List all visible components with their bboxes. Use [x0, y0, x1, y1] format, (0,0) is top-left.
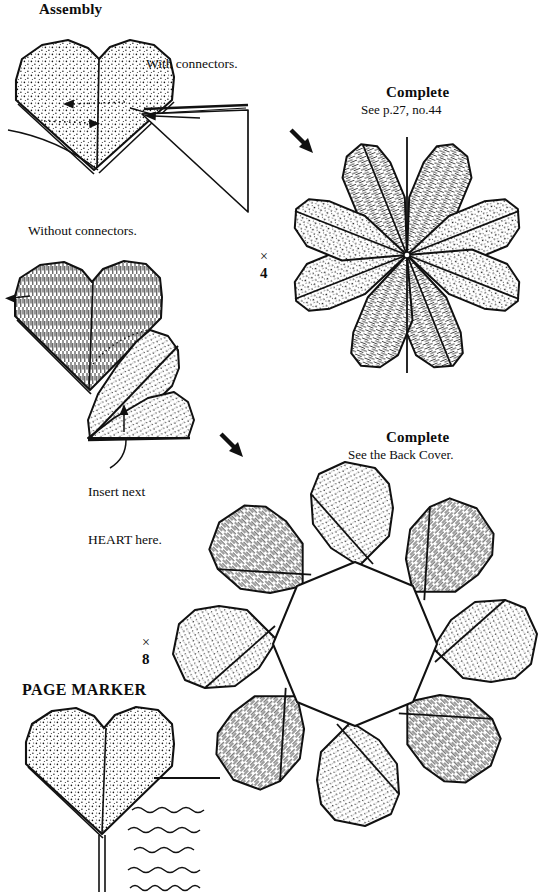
squiggle-line-5 — [130, 886, 200, 891]
page-marker-heading: PAGE MARKER — [22, 681, 147, 700]
without-connectors-label: Without connectors. — [28, 223, 137, 239]
page-squiggle-lines — [128, 808, 204, 891]
insert-next-line-1: Insert next — [88, 484, 162, 500]
multiplier-8-symbol: × — [142, 635, 150, 650]
complete-1-subtext: See p.27, no.44 — [361, 102, 442, 117]
two-hearts-svg — [2, 252, 212, 452]
squiggle-line-3 — [134, 848, 194, 853]
ring-heart-5 — [317, 722, 399, 826]
insert-next-heart-caption: Insert next HEART here. — [88, 452, 162, 579]
squiggle-line-2 — [128, 828, 200, 833]
insert-next-line-2: HEART here. — [88, 532, 162, 548]
figure-connector-triangle — [138, 96, 268, 224]
rosette-4-center-point — [404, 252, 410, 258]
figure-rosette-4 — [276, 128, 538, 398]
ring-heart-1 — [311, 462, 393, 566]
complete-2-heading: Complete — [386, 429, 449, 447]
page-marker-svg — [14, 700, 234, 892]
multiplier-8-count: 8 — [142, 651, 150, 667]
multiplier-4: × 4 — [246, 232, 268, 299]
with-connectors-label: With connectors. — [146, 56, 238, 72]
page-marker-tail — [99, 835, 105, 892]
multiplier-8: × 8 — [128, 618, 150, 685]
rosette-8-open-center — [273, 562, 437, 726]
connector-triangle-outline — [142, 110, 248, 212]
multiplier-4-symbol: × — [260, 249, 268, 264]
figure-page-marker — [14, 700, 234, 892]
figure-without-connectors — [2, 252, 212, 452]
complete-1-heading: Complete — [386, 84, 449, 102]
connector-triangle-svg — [138, 96, 268, 224]
origami-instruction-page: Assembly — [0, 0, 542, 892]
rosette-4-svg — [276, 128, 538, 398]
page-marker-heart-outline — [26, 707, 174, 834]
assembly-heading: Assembly — [39, 1, 102, 19]
squiggle-line-4 — [128, 868, 200, 873]
squiggle-line-1 — [132, 808, 204, 813]
ring-heart-3 — [433, 600, 537, 682]
multiplier-4-count: 4 — [260, 265, 268, 281]
ring-heart-7 — [173, 606, 277, 688]
rosette-4-petals — [285, 136, 530, 377]
